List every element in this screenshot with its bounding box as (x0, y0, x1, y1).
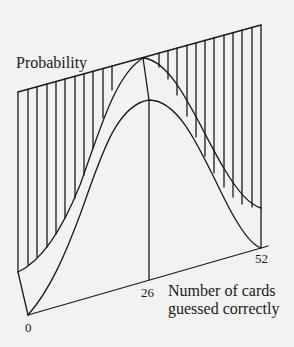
tick-label-26: 26 (141, 286, 154, 299)
left-end-edge (18, 272, 28, 315)
peak-connector (143, 58, 149, 100)
hatch-lines-left (18, 66, 112, 272)
y-axis-label: Probability (16, 55, 87, 71)
x-axis-label-line1: Number of cards (168, 282, 280, 300)
x-axis-label-line2: guessed correctly (168, 300, 280, 318)
hatch-lines-right (159, 25, 261, 208)
tick-label-0: 0 (25, 321, 32, 334)
x-axis-label: Number of cards guessed correctly (168, 282, 280, 318)
tick-label-52: 52 (255, 252, 268, 265)
